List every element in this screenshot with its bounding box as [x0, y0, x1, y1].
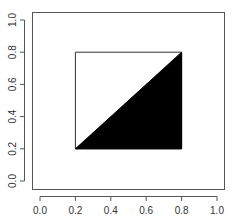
y-tick-label: 0.2: [7, 141, 18, 155]
y-axis: 0.00.20.40.60.81.0: [7, 13, 25, 188]
x-tick-label: 0.6: [139, 205, 153, 216]
chart: 0.00.20.40.60.81.0 0.00.20.40.60.81.0: [0, 0, 236, 224]
y-tick-label: 1.0: [7, 13, 18, 27]
x-axis: 0.00.20.40.60.81.0: [33, 197, 224, 217]
y-tick-label: 0.4: [7, 109, 18, 123]
shapes-layer: [75, 52, 181, 149]
x-tick-label: 0.2: [68, 205, 82, 216]
y-tick-label: 0.0: [7, 174, 18, 188]
y-tick-label: 0.6: [7, 77, 18, 91]
y-tick-label: 0.8: [7, 45, 18, 59]
x-tick-label: 0.8: [175, 205, 189, 216]
x-tick-label: 1.0: [210, 205, 224, 216]
x-tick-label: 0.4: [104, 205, 118, 216]
x-tick-label: 0.0: [33, 205, 47, 216]
